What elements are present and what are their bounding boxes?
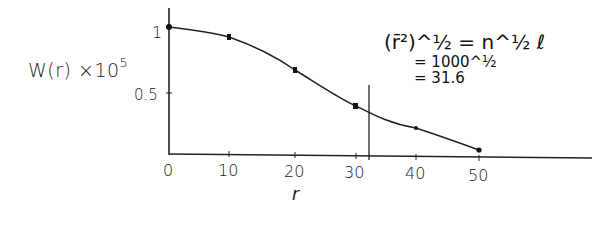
x-tick-labels: 0 10 20 30 40 50 xyxy=(163,161,488,185)
svg-text:30: 30 xyxy=(344,163,364,182)
y-axis-label: W(r) ×105 xyxy=(28,58,128,81)
rms-annotation: (r̄²)^½ = n^½ ℓ = 1000^½ = 31.6 xyxy=(384,30,545,86)
y-tick-label-0.5: 0.5 xyxy=(134,86,158,104)
annotation-line-3: = 31.6 xyxy=(414,70,545,86)
svg-text:50: 50 xyxy=(468,166,488,185)
x-axis xyxy=(169,154,592,158)
x-axis-label: r xyxy=(292,184,300,204)
svg-text:0: 0 xyxy=(163,161,173,180)
annotation-line-2: = 1000^½ xyxy=(414,54,545,70)
svg-text:20: 20 xyxy=(284,162,304,181)
y-tick-label-1: 1 xyxy=(152,23,162,42)
annotation-line-1: (r̄²)^½ = n^½ ℓ xyxy=(384,30,545,54)
svg-text:40: 40 xyxy=(405,164,425,183)
svg-text:10: 10 xyxy=(218,161,238,180)
